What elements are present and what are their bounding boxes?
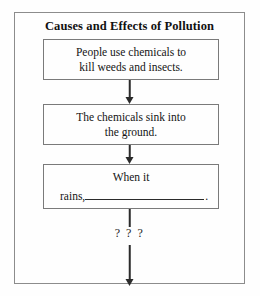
arrow-shaft [129,245,131,280]
page-title: Causes and Effects of Pollution [15,19,244,34]
arrow-down-icon [125,145,134,164]
arrow-head [126,279,134,286]
flowchart-box-fill-in-blank: When it rains, . [43,164,219,209]
flowchart-box-effect-line-2: the ground. [44,125,218,140]
flowchart-box-cause-line-2: kill weeds and insects. [44,60,218,75]
arrow-down-icon [125,80,134,104]
flowchart-box-fill-in-blank-line-1: When it [44,170,218,185]
connector-line [125,209,134,227]
flowchart-box-effect-line-1: The chemicals sink into [44,110,218,125]
arrow-shaft [129,209,131,227]
arrow-down-icon [125,245,134,287]
fill-in-blank-input[interactable] [85,188,204,200]
fill-in-blank-prefix: rains, [60,189,85,204]
arrow-shaft [129,80,131,98]
fill-in-blank-row: rains, . [44,188,218,204]
flowchart-box-cause: People use chemicals to kill weeds and i… [43,39,219,80]
worksheet-frame: Causes and Effects of Pollution People u… [14,12,245,284]
fill-in-blank-suffix: . [205,189,208,204]
arrow-head [126,157,134,164]
worksheet-page: Causes and Effects of Pollution People u… [0,0,260,296]
flowchart-box-cause-line-1: People use chemicals to [44,45,218,60]
flowchart-box-effect: The chemicals sink into the ground. [43,104,219,145]
unknown-outcome-label: ? ? ? [15,226,244,241]
arrow-head [126,97,134,104]
